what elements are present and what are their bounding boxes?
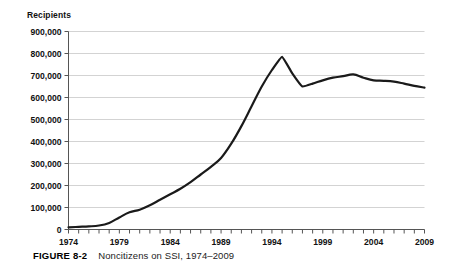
data-series-line [69,57,425,228]
x-axis-group: 19741979198419891994199920042009 [59,230,434,247]
x-axis-tick-label: 1994 [262,237,281,246]
y-axis-group: 0100,000200,000300,000400,000500,000600,… [30,27,68,235]
x-axis-tick-label: 1979 [110,237,129,246]
x-axis-tick-label: 1999 [313,237,332,246]
gridlines-group [69,32,425,230]
figure-container: Recipients 0100,000200,000300,000400,000… [0,0,449,276]
y-axis-tick-label: 900,000 [30,27,61,37]
y-axis-tick-label: 800,000 [30,49,61,59]
y-axis-tick-label: 100,000 [30,203,61,213]
y-axis-tick-label: 600,000 [30,93,61,103]
x-axis-tick-label: 1989 [212,237,231,246]
x-axis-tick-label: 2004 [364,237,383,246]
line-chart-svg: 0100,000200,000300,000400,000500,000600,… [0,0,449,246]
chart-plot-container: Recipients 0100,000200,000300,000400,000… [0,0,449,246]
y-axis-tick-label: 400,000 [30,137,61,147]
y-axis-tick-label: 200,000 [30,181,61,191]
figure-caption-text: Noncitizens on SSI, 1974–2009 [98,250,234,261]
x-axis-tick-label: 1974 [59,237,78,246]
y-axis-tick-label: 300,000 [30,159,61,169]
figure-caption: FIGURE 8-2 Noncitizens on SSI, 1974–2009 [0,250,449,276]
x-axis-tick-label: 1984 [161,237,180,246]
figure-caption-label: FIGURE 8-2 [33,250,87,261]
y-axis-tick-label: 0 [57,225,62,235]
y-axis-tick-label: 700,000 [30,71,61,81]
x-axis-tick-label: 2009 [415,237,434,246]
y-axis-tick-label: 500,000 [30,115,61,125]
data-line-group [69,57,425,228]
